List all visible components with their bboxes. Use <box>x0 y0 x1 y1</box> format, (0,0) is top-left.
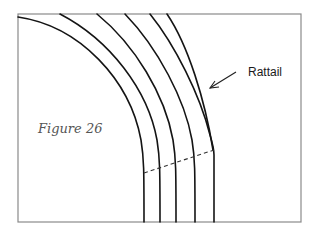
figure-caption: Figure 26 <box>37 121 102 136</box>
dashed-reference-line <box>144 150 214 173</box>
callout-arrow-shaft <box>210 72 236 88</box>
arrow-head-icon <box>210 81 219 88</box>
rattail-diagram: Rattail Figure 26 <box>0 0 315 234</box>
arc-line-2 <box>60 14 160 222</box>
arc-line-1 <box>18 17 144 222</box>
arc-line-3 <box>97 14 176 222</box>
rattail-label: Rattail <box>248 65 282 79</box>
